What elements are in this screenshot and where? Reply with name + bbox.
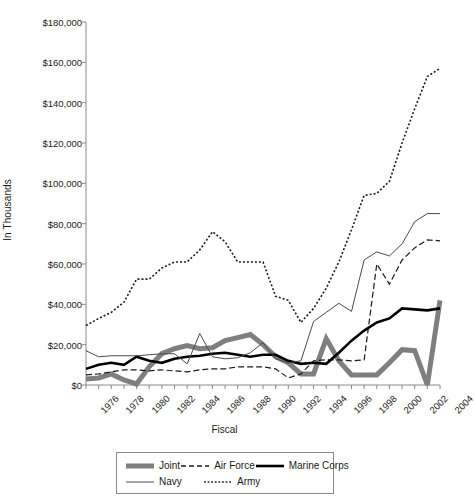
x-tick-label: 2000 <box>402 393 425 416</box>
legend-label-air-force: Air Force <box>214 461 255 471</box>
legend-item-joint[interactable]: Joint <box>125 461 180 471</box>
x-tick-label: 1986 <box>225 393 248 416</box>
x-tick-label: 1998 <box>376 393 399 416</box>
x-tick-label: 1996 <box>351 393 374 416</box>
x-tick-label: 2004 <box>452 393 475 416</box>
line-swatch-dashed-icon <box>180 461 210 471</box>
legend-row-2: Navy Army <box>125 474 327 490</box>
legend-label-navy: Navy <box>159 477 182 487</box>
chart-legend: Joint Air Force Marine Corps Navy <box>116 452 334 494</box>
x-tick-label: 1976 <box>98 393 121 416</box>
legend-item-army[interactable]: Army <box>203 477 287 487</box>
legend-item-navy[interactable]: Navy <box>125 477 203 487</box>
x-tick-label: 1978 <box>123 393 146 416</box>
x-tick-label: 1984 <box>199 393 222 416</box>
line-swatch-dotted-icon <box>203 477 233 487</box>
legend-label-marine-corps: Marine Corps <box>289 461 349 471</box>
legend-item-marine-corps[interactable]: Marine Corps <box>255 461 349 471</box>
line-swatch-thick-black-icon <box>255 461 285 471</box>
legend-row-1: Joint Air Force Marine Corps <box>125 458 327 474</box>
line-swatch-thin-icon <box>125 477 155 487</box>
x-tick-label: 1988 <box>250 393 273 416</box>
x-tick-label: 1990 <box>275 393 298 416</box>
x-tick-label: 1982 <box>174 393 197 416</box>
x-tick-label: 1980 <box>149 393 172 416</box>
x-tick-label: 2002 <box>427 393 450 416</box>
x-tick-label: 1992 <box>300 393 323 416</box>
legend-item-air-force[interactable]: Air Force <box>180 461 255 471</box>
x-axis-title: Fiscal <box>0 424 449 435</box>
line-swatch-thick-gray-icon <box>125 461 155 471</box>
x-tick-label: 1994 <box>326 393 349 416</box>
legend-label-army: Army <box>237 477 260 487</box>
legend-label-joint: Joint <box>159 461 180 471</box>
